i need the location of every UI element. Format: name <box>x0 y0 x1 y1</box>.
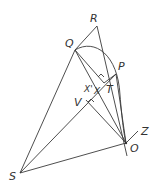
label-P: P <box>118 60 125 73</box>
label-Q: Q <box>65 37 74 50</box>
label-Z: Z <box>140 125 149 138</box>
label-S: S <box>9 170 16 183</box>
label-O: O <box>130 142 139 155</box>
geometry-diagram: R Q P T X' X V S O Z <box>0 0 160 190</box>
line-S-P <box>20 74 116 173</box>
label-X-prime: X' <box>83 84 93 94</box>
point-O <box>125 142 127 144</box>
line-S-O <box>20 143 126 173</box>
line-S-Q <box>20 50 75 173</box>
label-V: V <box>74 96 83 109</box>
right-angle-T <box>98 74 104 77</box>
line-Q-T <box>75 50 104 83</box>
label-R: R <box>90 12 98 25</box>
right-angle-V <box>88 99 94 102</box>
label-X: X <box>93 86 101 96</box>
